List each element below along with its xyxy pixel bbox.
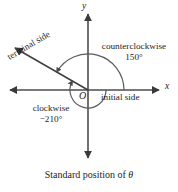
- counterclockwise-label: counterclockwise: [102, 41, 166, 51]
- figure-standard-position: y x O counterclockwise 150° clockwise −2…: [0, 0, 178, 192]
- clockwise-angle-value: −210°: [20, 115, 82, 125]
- counterclockwise-annotation: counterclockwise 150°: [91, 42, 177, 62]
- origin-label: O: [79, 91, 86, 102]
- clockwise-label: clockwise: [33, 103, 70, 113]
- counterclockwise-angle-value: 150°: [91, 53, 177, 63]
- caption-text: Standard position of: [45, 169, 129, 180]
- x-axis-label: x: [165, 82, 169, 92]
- y-axis-label: y: [82, 2, 86, 12]
- initial-side-label: initial side: [101, 93, 140, 103]
- terminal-side-ray: [15, 48, 88, 90]
- figure-caption: Standard position of θ: [0, 170, 178, 181]
- clockwise-annotation: clockwise −210°: [20, 104, 82, 124]
- coordinate-diagram: [0, 0, 178, 192]
- caption-theta-symbol: θ: [128, 169, 133, 180]
